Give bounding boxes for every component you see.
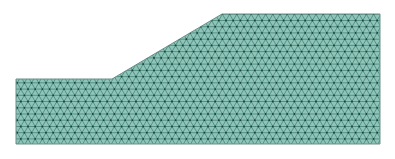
mesh-diagram <box>0 0 395 159</box>
triangular-mesh <box>0 0 395 159</box>
